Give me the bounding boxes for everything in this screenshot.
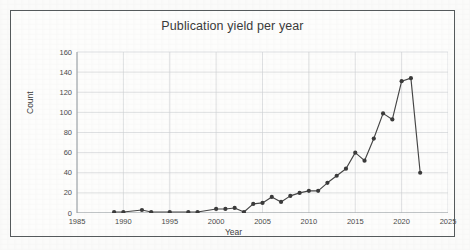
x-tick-label: 2015 xyxy=(338,217,372,226)
chart-title: Publication yield per year xyxy=(11,19,454,33)
x-tick-label: 2020 xyxy=(385,217,419,226)
x-tick-label: 2000 xyxy=(199,217,233,226)
x-tick-label: 1995 xyxy=(153,217,187,226)
y-axis-title: Count xyxy=(25,91,35,114)
line-chart-svg xyxy=(67,42,448,213)
x-axis-title: Year xyxy=(11,227,456,237)
x-tick-label: 2025 xyxy=(431,217,465,226)
data-point-markers xyxy=(112,76,422,213)
plot-area xyxy=(67,42,448,213)
scanned-page-background: Publication yield per year Count Year 02… xyxy=(0,0,470,250)
chart-figure-frame: Publication yield per year Count Year 02… xyxy=(10,10,455,237)
x-tick-label: 1990 xyxy=(106,217,140,226)
data-line-publication-count xyxy=(114,78,420,212)
x-tick-label: 2010 xyxy=(292,217,326,226)
x-tick-label: 1985 xyxy=(60,217,94,226)
x-tick-label: 2005 xyxy=(246,217,280,226)
